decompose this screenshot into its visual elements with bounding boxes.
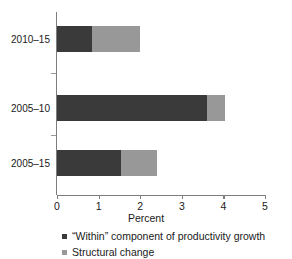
x-axis-tick [182, 195, 183, 199]
x-axis-tick [265, 195, 266, 199]
bar-segment-structural-change [207, 95, 226, 121]
x-axis-tick-label: 1 [87, 200, 111, 212]
legend-label-structural-change: Structural change [72, 246, 154, 258]
x-axis-title: Percent [0, 212, 292, 224]
square-marker-icon [62, 234, 67, 239]
bar-2005-10 [0, 95, 292, 121]
bar-2005-15 [0, 150, 292, 176]
y-axis-tick [51, 73, 56, 74]
stacked-bar-chart: 2010–15 2005–10 2005–15 012345 Percent “… [0, 0, 292, 259]
x-axis-tick-label: 4 [211, 200, 235, 212]
bar-segment-structural-change [121, 150, 156, 176]
x-axis-line [57, 195, 266, 196]
bar-segment-within [57, 26, 92, 52]
bar-2010-15 [0, 26, 292, 52]
x-axis-tick [99, 195, 100, 199]
x-axis-tick [140, 195, 141, 199]
square-marker-icon [62, 250, 67, 255]
x-axis-tick-label: 0 [45, 200, 69, 212]
x-axis-tick [57, 195, 58, 199]
legend-item-structural-change: Structural change [62, 245, 265, 259]
bar-segment-structural-change [92, 26, 140, 52]
legend-item-within: “Within” component of productivity growt… [62, 229, 265, 243]
x-axis-tick-label: 2 [128, 200, 152, 212]
x-axis-tick-label: 3 [170, 200, 194, 212]
chart-legend: “Within” component of productivity growt… [62, 229, 265, 259]
y-axis-tick [51, 135, 56, 136]
bar-segment-within [57, 150, 121, 176]
legend-label-within: “Within” component of productivity growt… [72, 230, 265, 242]
bar-segment-within [57, 95, 207, 121]
x-axis-tick [223, 195, 224, 199]
x-axis-tick-label: 5 [253, 200, 277, 212]
